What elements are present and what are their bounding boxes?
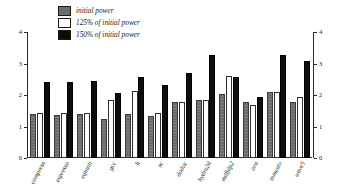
bar-groups	[28, 32, 312, 158]
x-axis-label-slot: li	[123, 159, 147, 190]
x-axis-label: wave5	[292, 160, 306, 178]
x-axis-label: ora	[249, 160, 259, 171]
y-axis-left-tick	[24, 158, 27, 159]
x-axis-label-slot: sc	[146, 159, 170, 190]
y-axis-right-tick	[314, 127, 317, 128]
bar	[243, 102, 249, 158]
bar-chart: initial power 125% of initial power 150%…	[0, 0, 345, 190]
x-axis-label-slot: espresso	[52, 159, 76, 190]
y-axis-right-tick	[314, 95, 317, 96]
legend-swatch-150-percent	[58, 30, 71, 40]
bar-group	[75, 32, 99, 158]
y-axis-right-tick-label: 4	[319, 29, 322, 36]
bar	[91, 81, 97, 158]
x-axis-label-slot: ora	[241, 159, 265, 190]
y-axis-left-tick	[24, 32, 27, 33]
bar	[37, 113, 43, 158]
x-axis-label: hydro2d	[195, 160, 211, 182]
x-axis-label-slot: gcc	[99, 159, 123, 190]
y-axis-left-tick-label: 4	[19, 29, 22, 36]
y-axis-left-tick-label: 1	[19, 124, 22, 131]
bar	[61, 113, 67, 158]
bar	[125, 114, 131, 158]
x-axis-label-slot: eqntott	[75, 159, 99, 190]
x-axis-label-slot: tomcatv	[265, 159, 289, 190]
bar	[101, 119, 107, 158]
legend-swatch-125-percent	[58, 18, 71, 28]
bar	[219, 94, 225, 158]
y-axis-left-tick-label: 2	[19, 92, 22, 99]
bar	[148, 116, 154, 158]
bar	[108, 100, 114, 158]
x-axis-label: doduc	[174, 160, 188, 178]
bar-group	[241, 32, 265, 158]
y-axis-left-tick-label: 3	[19, 61, 22, 68]
x-axis-label-slot: hydro2d	[194, 159, 218, 190]
x-axis-label: eqntott	[79, 160, 94, 179]
bar	[155, 113, 161, 158]
y-axis-right-tick	[314, 64, 317, 65]
bar-group	[123, 32, 147, 158]
bar-group	[52, 32, 76, 158]
legend-item-150-percent: 150% of initial power	[58, 30, 140, 40]
bar-group	[146, 32, 170, 158]
bar	[67, 82, 73, 158]
bar	[30, 114, 36, 158]
bar	[138, 77, 144, 158]
bar	[162, 85, 168, 158]
bar-group	[170, 32, 194, 158]
y-axis-right-tick-label: 3	[319, 61, 322, 68]
bar	[77, 114, 83, 158]
bar-group	[99, 32, 123, 158]
bar	[267, 92, 273, 158]
legend-label-125-percent: 125% of initial power	[76, 19, 140, 27]
legend-label-initial-power: initial power	[76, 7, 114, 15]
y-axis-right-tick	[314, 32, 317, 33]
bar	[44, 82, 50, 158]
y-axis-right-tick-label: 0	[319, 155, 322, 162]
x-axis-labels: compressespressoeqntottgccliscdoduchydro…	[28, 159, 312, 190]
plot-area	[28, 32, 312, 158]
bar	[186, 73, 192, 158]
bar	[54, 115, 60, 158]
legend-item-initial-power: initial power	[58, 6, 140, 16]
bar	[274, 92, 280, 158]
legend-label-150-percent: 150% of initial power	[76, 31, 140, 39]
x-axis-label: gcc	[107, 160, 117, 171]
bar	[179, 102, 185, 158]
bar-group	[288, 32, 312, 158]
x-axis-label-slot: compress	[28, 159, 52, 190]
y-axis-right-tick-label: 2	[319, 92, 322, 99]
bar	[233, 77, 239, 158]
bar	[290, 102, 296, 158]
legend-swatch-initial-power	[58, 6, 71, 16]
chart-legend: initial power 125% of initial power 150%…	[58, 6, 140, 40]
legend-item-125-percent: 125% of initial power	[58, 18, 140, 28]
bar	[115, 93, 121, 158]
bar	[297, 97, 303, 158]
bar	[172, 102, 178, 158]
bar-group	[217, 32, 241, 158]
y-axis-right-tick	[314, 158, 317, 159]
x-axis-label-slot: doduc	[170, 159, 194, 190]
bar-group	[194, 32, 218, 158]
bar-group	[265, 32, 289, 158]
bar	[196, 100, 202, 158]
bar	[84, 113, 90, 158]
y-axis-left-tick	[24, 127, 27, 128]
y-axis-left-tick	[24, 95, 27, 96]
bar	[304, 61, 310, 158]
y-axis-left-tick-label: 0	[19, 155, 22, 162]
y-axis-right-tick-label: 1	[319, 124, 322, 131]
x-axis-label-slot: mdljdp2	[217, 159, 241, 190]
x-axis-label: tomcatv	[267, 160, 283, 182]
bar	[280, 55, 286, 158]
y-axis-left-tick	[24, 64, 27, 65]
bar	[257, 97, 263, 158]
bar	[209, 55, 215, 158]
x-axis-label: sc	[156, 160, 165, 168]
bar	[203, 100, 209, 158]
x-axis-label: li	[133, 160, 141, 167]
bar	[226, 76, 232, 158]
x-axis-label: espresso	[53, 160, 70, 183]
